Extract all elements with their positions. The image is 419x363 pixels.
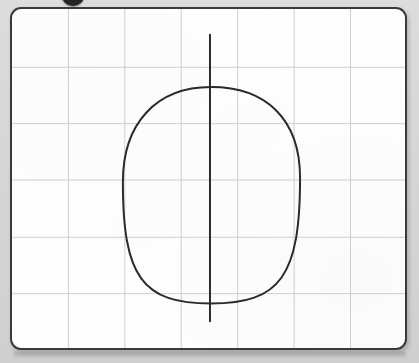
whiteboard-marker-cap-icon: [62, 0, 84, 6]
drawing-layer: [12, 9, 405, 348]
whiteboard-drop-shadow: [14, 352, 406, 359]
egg-outline-shape: [123, 87, 300, 303]
whiteboard-scene: [0, 0, 419, 363]
whiteboard-panel[interactable]: [10, 7, 407, 350]
